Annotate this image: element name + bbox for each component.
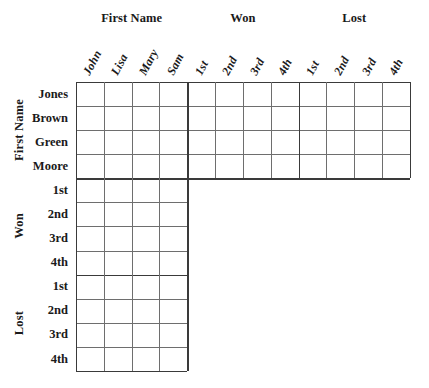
grid-cell-r0-c4[interactable] — [187, 82, 215, 106]
grid-cell-r3-c3[interactable] — [159, 154, 187, 178]
grid-cell-r7-c1[interactable] — [104, 251, 132, 275]
grid-cell-r5-c2[interactable] — [132, 202, 160, 226]
grid-cell-r2-c6[interactable] — [243, 130, 271, 154]
grid-cell-r3-c7[interactable] — [271, 154, 299, 178]
grid-cell-r1-c6[interactable] — [243, 106, 271, 130]
grid-cell-r6-c1[interactable] — [104, 226, 132, 250]
row-label-5: 2nd — [0, 208, 68, 221]
grid-cell-r4-c0[interactable] — [76, 178, 104, 202]
column-header-label-1: Lisa — [108, 51, 132, 78]
grid-cell-r5-c0[interactable] — [76, 202, 104, 226]
grid-cell-r1-c0[interactable] — [76, 106, 104, 130]
grid-cell-r0-c2[interactable] — [132, 82, 160, 106]
row-label-7: 4th — [0, 256, 68, 269]
grid-cell-r1-c2[interactable] — [132, 106, 160, 130]
grid-cell-r2-c0[interactable] — [76, 130, 104, 154]
grid-cell-r4-c2[interactable] — [132, 178, 160, 202]
grid-cell-r9-c1[interactable] — [104, 299, 132, 323]
grid-cell-r0-c10[interactable] — [354, 82, 382, 106]
grid-cell-r8-c3[interactable] — [159, 275, 187, 299]
grid-cell-r10-c3[interactable] — [159, 323, 187, 347]
grid-vline-11 — [382, 82, 383, 178]
grid-cell-r2-c4[interactable] — [187, 130, 215, 154]
grid-cell-r0-c7[interactable] — [271, 82, 299, 106]
grid-cell-r0-c9[interactable] — [326, 82, 354, 106]
grid-cell-r11-c2[interactable] — [132, 347, 160, 371]
column-header-label-9: 2nd — [330, 54, 352, 78]
grid-cell-r4-c3[interactable] — [159, 178, 187, 202]
grid-cell-r6-c3[interactable] — [159, 226, 187, 250]
row-label-10: 3rd — [0, 328, 68, 341]
grid-cell-r11-c1[interactable] — [104, 347, 132, 371]
grid-cell-r4-c1[interactable] — [104, 178, 132, 202]
grid-cell-r1-c7[interactable] — [271, 106, 299, 130]
grid-vline-4 — [187, 82, 188, 371]
column-header-label-3: Sam — [163, 51, 187, 78]
grid-cell-r3-c11[interactable] — [382, 154, 410, 178]
column-header-label-7: 4th — [275, 56, 296, 78]
grid-vline-6 — [243, 82, 244, 178]
grid-cell-r11-c0[interactable] — [76, 347, 104, 371]
grid-cell-r0-c8[interactable] — [299, 82, 327, 106]
grid-cell-r2-c1[interactable] — [104, 130, 132, 154]
grid-cell-r0-c6[interactable] — [243, 82, 271, 106]
grid-cell-r8-c1[interactable] — [104, 275, 132, 299]
grid-cell-r9-c3[interactable] — [159, 299, 187, 323]
grid-cell-r2-c7[interactable] — [271, 130, 299, 154]
grid-cell-r7-c3[interactable] — [159, 251, 187, 275]
grid-cell-r2-c5[interactable] — [215, 130, 243, 154]
grid-cell-r1-c1[interactable] — [104, 106, 132, 130]
grid-cell-r1-c8[interactable] — [299, 106, 327, 130]
grid-cell-r9-c0[interactable] — [76, 299, 104, 323]
grid-cell-r2-c8[interactable] — [299, 130, 327, 154]
grid-cell-r1-c4[interactable] — [187, 106, 215, 130]
grid-hline-12 — [76, 371, 187, 372]
column-header-label-5: 2nd — [219, 54, 241, 78]
grid-cell-r5-c3[interactable] — [159, 202, 187, 226]
grid-cell-r7-c0[interactable] — [76, 251, 104, 275]
grid-cell-r3-c5[interactable] — [215, 154, 243, 178]
grid-cell-r6-c0[interactable] — [76, 226, 104, 250]
grid-cell-r3-c6[interactable] — [243, 154, 271, 178]
grid-cell-r1-c11[interactable] — [382, 106, 410, 130]
grid-hline-4 — [76, 178, 410, 179]
grid-cell-r10-c2[interactable] — [132, 323, 160, 347]
grid-cell-r0-c1[interactable] — [104, 82, 132, 106]
grid-cell-r0-c3[interactable] — [159, 82, 187, 106]
grid-cell-r5-c1[interactable] — [104, 202, 132, 226]
grid-cell-r2-c3[interactable] — [159, 130, 187, 154]
grid-cell-r2-c11[interactable] — [382, 130, 410, 154]
grid-cell-r1-c3[interactable] — [159, 106, 187, 130]
grid-cell-r3-c9[interactable] — [326, 154, 354, 178]
grid-cell-r11-c3[interactable] — [159, 347, 187, 371]
grid-cell-r3-c0[interactable] — [76, 154, 104, 178]
grid-vline-2 — [132, 82, 133, 371]
logic-puzzle-grid: First NameWonLostJohnLisaMarySam1st2nd3r… — [0, 0, 429, 388]
row-label-2: Green — [0, 136, 68, 149]
grid-cell-r3-c4[interactable] — [187, 154, 215, 178]
grid-cell-r1-c9[interactable] — [326, 106, 354, 130]
grid-cell-r9-c2[interactable] — [132, 299, 160, 323]
top-group-label-0: First Name — [72, 11, 192, 26]
grid-vline-3 — [159, 82, 160, 371]
grid-cell-r2-c10[interactable] — [354, 130, 382, 154]
grid-cell-r3-c1[interactable] — [104, 154, 132, 178]
grid-cell-r2-c2[interactable] — [132, 130, 160, 154]
grid-cell-r8-c0[interactable] — [76, 275, 104, 299]
grid-cell-r3-c10[interactable] — [354, 154, 382, 178]
grid-cell-r0-c5[interactable] — [215, 82, 243, 106]
grid-cell-r0-c0[interactable] — [76, 82, 104, 106]
grid-cell-r3-c8[interactable] — [299, 154, 327, 178]
grid-cell-r3-c2[interactable] — [132, 154, 160, 178]
grid-vline-8 — [299, 82, 300, 178]
grid-cell-r10-c1[interactable] — [104, 323, 132, 347]
grid-cell-r1-c10[interactable] — [354, 106, 382, 130]
grid-cell-r1-c5[interactable] — [215, 106, 243, 130]
grid-cell-r8-c2[interactable] — [132, 275, 160, 299]
grid-cell-r0-c11[interactable] — [382, 82, 410, 106]
grid-cell-r10-c0[interactable] — [76, 323, 104, 347]
grid-cell-r2-c9[interactable] — [326, 130, 354, 154]
grid-cell-r6-c2[interactable] — [132, 226, 160, 250]
grid-vline-12 — [410, 82, 411, 178]
grid-cell-r7-c2[interactable] — [132, 251, 160, 275]
